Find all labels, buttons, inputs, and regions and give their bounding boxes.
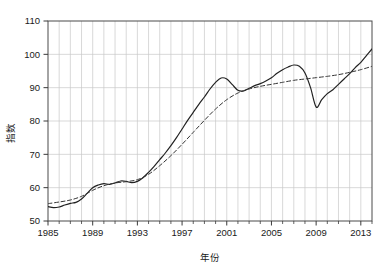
y-axis-tick-label: 60	[29, 182, 40, 193]
x-axis-tick-label: 1985	[37, 227, 58, 238]
index-year-line-chart: 1985198919931997200120052009201350607080…	[0, 0, 392, 267]
y-axis-tick-label: 50	[29, 215, 40, 226]
chart-background	[0, 0, 392, 267]
y-axis-tick-label: 110	[25, 15, 40, 26]
chart-container: 1985198919931997200120052009201350607080…	[0, 0, 392, 267]
x-axis-title: 年份	[200, 252, 220, 263]
x-axis-tick-label: 2005	[261, 227, 282, 238]
y-axis-tick-label: 70	[29, 149, 40, 160]
y-axis-tick-label: 90	[29, 82, 40, 93]
y-axis-tick-label: 80	[29, 115, 40, 126]
y-axis-title: 指数	[5, 123, 16, 143]
y-axis-tick-label: 100	[24, 49, 40, 60]
x-axis-tick-label: 2001	[216, 227, 237, 238]
x-axis-tick-label: 1997	[171, 227, 192, 238]
x-axis-tick-label: 2009	[306, 227, 327, 238]
x-axis-tick-label: 1989	[82, 227, 103, 238]
x-axis-tick-label: 2013	[350, 227, 371, 238]
x-axis-tick-label: 1993	[127, 227, 148, 238]
